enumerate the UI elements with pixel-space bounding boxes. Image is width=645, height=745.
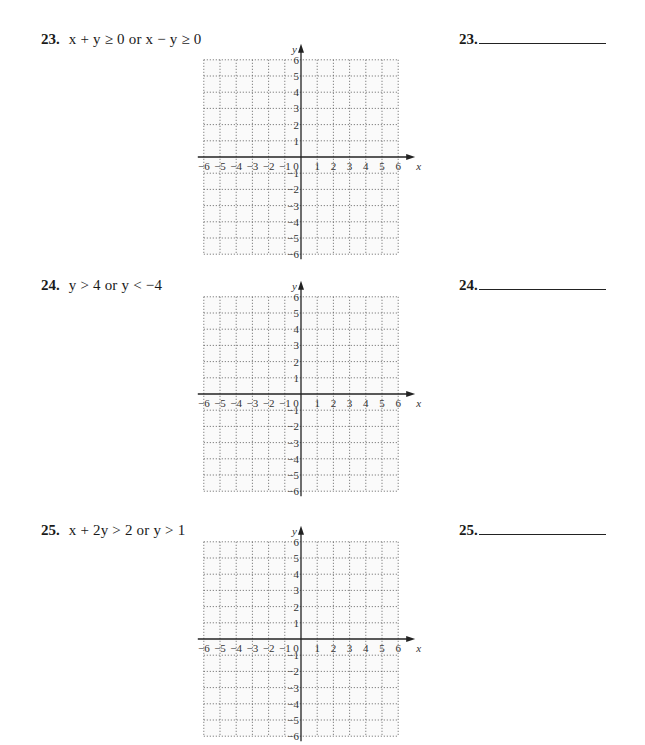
- y-tick-label: 2: [294, 356, 300, 368]
- x-tick-label: 1: [314, 642, 320, 654]
- y-tick-label: 4: [294, 86, 300, 98]
- x-tick-label: −5: [214, 160, 226, 172]
- y-tick-label: −3: [287, 682, 299, 694]
- x-axis-label: x: [415, 642, 421, 654]
- answer-line[interactable]: [479, 42, 606, 44]
- x-tick-label: −6: [198, 160, 210, 172]
- x-tick-label: 4: [363, 642, 369, 654]
- x-tick-label: 4: [363, 160, 369, 172]
- answer-number: 23.: [459, 31, 478, 47]
- problem-statement: 24.y > 4 or y < −4: [41, 277, 162, 294]
- coordinate-grid[interactable]: xy−6−5−4−3−2−10123456123456−1−2−3−4−5−6: [185, 38, 430, 263]
- problem-number: 24.: [41, 277, 60, 293]
- x-tick-label: −5: [214, 397, 226, 409]
- y-tick-label: −1: [287, 167, 299, 179]
- y-axis-arrow-icon: [298, 281, 304, 290]
- y-tick-label: −3: [287, 437, 299, 449]
- y-tick-label: −4: [287, 216, 299, 228]
- problem-statement: 23.x + y ≥ 0 or x − y ≥ 0: [41, 31, 202, 48]
- y-axis-arrow-icon: [298, 526, 304, 535]
- x-tick-label: −3: [247, 642, 259, 654]
- y-tick-label: −1: [287, 649, 299, 661]
- y-tick-label: −4: [287, 698, 299, 710]
- x-tick-label: −2: [263, 397, 275, 409]
- x-tick-label: −3: [247, 160, 259, 172]
- answer-blank[interactable]: 24.: [459, 277, 606, 294]
- y-tick-label: 4: [294, 323, 300, 335]
- x-tick-label: 3: [347, 160, 353, 172]
- answer-number: 24.: [459, 277, 478, 293]
- y-tick-label: 2: [294, 119, 300, 131]
- x-tick-label: −6: [198, 642, 210, 654]
- y-axis-arrow-icon: [298, 44, 304, 53]
- answer-line[interactable]: [479, 533, 606, 535]
- y-tick-label: 2: [294, 601, 300, 613]
- x-tick-label: 2: [331, 397, 337, 409]
- inequality-expression: x + y ≥ 0 or x − y ≥ 0: [69, 31, 202, 47]
- x-tick-label: 5: [379, 642, 385, 654]
- y-tick-label: 5: [294, 70, 300, 82]
- inequality-expression: y > 4 or y < −4: [69, 277, 162, 293]
- x-tick-label: 6: [395, 160, 401, 172]
- answer-line[interactable]: [479, 288, 606, 290]
- x-tick-label: −4: [230, 642, 242, 654]
- y-tick-label: −5: [287, 714, 299, 726]
- y-tick-label: −2: [287, 665, 299, 677]
- x-tick-label: 2: [331, 160, 337, 172]
- coordinate-grid[interactable]: xy−6−5−4−3−2−10123456123456−1−2−3−4−5−6: [185, 520, 430, 745]
- x-tick-label: 4: [363, 397, 369, 409]
- coordinate-grid[interactable]: xy−6−5−4−3−2−10123456123456−1−2−3−4−5−6: [185, 275, 430, 500]
- x-tick-label: −4: [230, 160, 242, 172]
- answer-blank[interactable]: 23.: [459, 31, 606, 48]
- x-tick-label: 1: [314, 160, 320, 172]
- y-tick-label: 1: [294, 372, 300, 384]
- y-tick-label: 4: [294, 568, 300, 580]
- y-tick-label: −5: [287, 232, 299, 244]
- y-tick-label: 3: [294, 102, 300, 114]
- answer-number: 25.: [459, 522, 478, 538]
- y-tick-label: −5: [287, 469, 299, 481]
- y-tick-label: 1: [294, 617, 300, 629]
- y-tick-label: −1: [287, 404, 299, 416]
- x-axis-arrow-icon: [406, 636, 415, 642]
- x-tick-label: 2: [331, 642, 337, 654]
- y-tick-label: −4: [287, 453, 299, 465]
- x-axis-label: x: [415, 160, 421, 172]
- y-tick-label: −2: [287, 183, 299, 195]
- y-tick-label: 6: [294, 291, 300, 303]
- x-tick-label: 6: [395, 642, 401, 654]
- y-tick-label: −6: [287, 485, 299, 497]
- y-tick-label: 6: [294, 536, 300, 548]
- y-tick-label: −6: [287, 248, 299, 260]
- x-tick-label: 3: [347, 397, 353, 409]
- x-tick-label: −4: [230, 397, 242, 409]
- x-tick-label: −2: [263, 160, 275, 172]
- y-tick-label: 5: [294, 552, 300, 564]
- x-axis-arrow-icon: [406, 391, 415, 397]
- inequality-expression: x + 2y > 2 or y > 1: [69, 522, 186, 538]
- y-tick-label: 3: [294, 584, 300, 596]
- x-tick-label: 5: [379, 160, 385, 172]
- y-tick-label: 1: [294, 135, 300, 147]
- y-tick-label: 3: [294, 339, 300, 351]
- x-tick-label: 3: [347, 642, 353, 654]
- x-tick-label: −3: [247, 397, 259, 409]
- x-axis-arrow-icon: [406, 154, 415, 160]
- y-tick-label: 6: [294, 54, 300, 66]
- x-tick-label: −6: [198, 397, 210, 409]
- x-axis-label: x: [415, 397, 421, 409]
- x-tick-label: −2: [263, 642, 275, 654]
- y-tick-label: −3: [287, 200, 299, 212]
- problem-statement: 25.x + 2y > 2 or y > 1: [41, 522, 185, 539]
- y-tick-label: −6: [287, 730, 299, 742]
- x-tick-label: 1: [314, 397, 320, 409]
- x-tick-label: 6: [395, 397, 401, 409]
- answer-blank[interactable]: 25.: [459, 522, 606, 539]
- y-tick-label: 5: [294, 307, 300, 319]
- x-tick-label: 5: [379, 397, 385, 409]
- problem-number: 23.: [41, 31, 60, 47]
- problem-number: 25.: [41, 522, 60, 538]
- x-tick-label: −5: [214, 642, 226, 654]
- y-tick-label: −2: [287, 420, 299, 432]
